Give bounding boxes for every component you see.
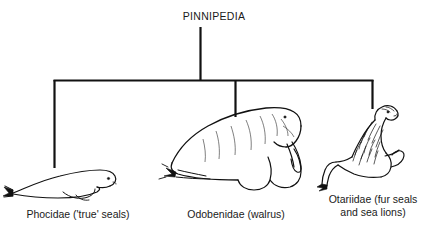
branch-label-phocidae: Phocidae ('true' seals) [0, 208, 156, 221]
taxonomy-diagram: PINNIPEDIA [0, 0, 428, 234]
branch-label-odobenidae: Odobenidae (walrus) [160, 208, 312, 221]
branch-label-otariidae: Otariidae (fur seals and sea lions) [318, 193, 428, 218]
